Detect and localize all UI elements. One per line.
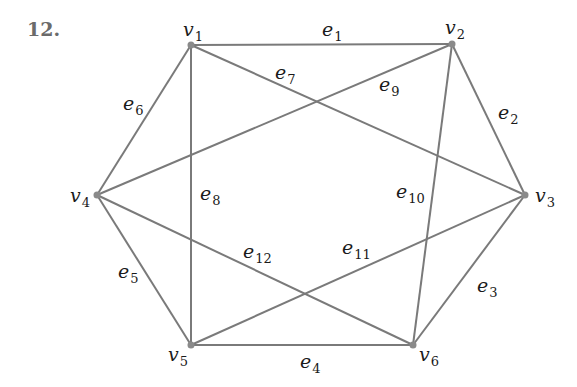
vertex-v4 [94,192,101,199]
vertex-v3 [522,192,529,199]
edge-label-e11: e11 [342,238,371,261]
edge-e11 [191,195,525,345]
edge-label-e3: e3 [477,276,498,299]
edge-e6 [97,45,191,195]
vertex-v5 [188,342,195,349]
edge-e7 [191,45,525,195]
vertex-label-v6: v6 [419,345,439,368]
edge-label-e2: e2 [498,103,519,126]
vertex-label-v3: v3 [535,186,555,209]
edge-label-e7: e7 [275,63,296,86]
vertex-label-v4: v4 [70,186,90,209]
edge-label-e6: e6 [123,94,144,117]
edge-label-e12: e12 [243,242,272,265]
edge-e1 [191,44,452,45]
edge-label-e9: e9 [379,75,400,98]
edges-layer [97,44,525,345]
edge-label-e4: e4 [300,352,321,375]
edge-label-e8: e8 [200,184,221,207]
edge-label-e5: e5 [118,262,139,285]
vertex-v2 [449,41,456,48]
vertex-label-v5: v5 [168,345,188,368]
edge-label-e1: e1 [322,20,343,43]
vertex-label-v1: v1 [183,20,203,43]
edge-label-e10: e10 [396,182,425,205]
vertex-v6 [410,342,417,349]
vertex-label-v2: v2 [445,18,465,41]
vertices-layer [94,41,529,349]
